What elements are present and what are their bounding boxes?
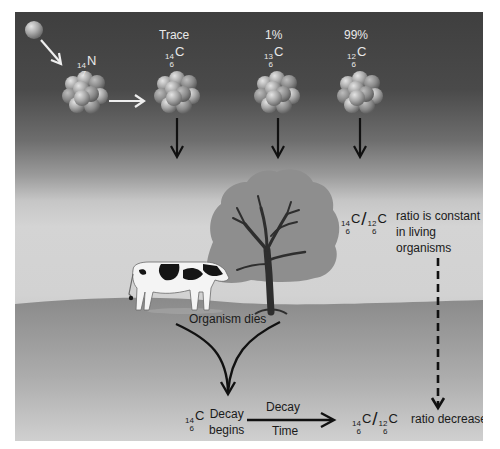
decay-arrow-label: Decay [266,401,300,414]
carbon-14-nucleus-icon [154,71,200,114]
carbon-14-label: 146C [165,45,184,65]
element-symbol: C [351,212,360,225]
element-symbol: C [175,45,184,58]
ratio-living-description: ratio is constant in living organisms [396,208,480,256]
element-symbol: C [388,412,397,425]
organism-dies-label: Organism dies [189,313,266,326]
nitrogen-14-label: 147N [77,54,96,74]
element-symbol: C [195,409,204,422]
atomic-number: 6 [185,425,194,433]
cosmic-ray-particle-icon [25,21,43,39]
time-arrow-label: Time [272,425,298,438]
element-symbol: C [274,45,283,58]
ratio-decreased-formula: 146C/126C [352,410,398,432]
carbon-13-abundance: 1% [265,29,282,42]
atomic-number: 6 [379,428,388,436]
transmutation-arrow-icon [109,95,144,107]
element-symbol: C [357,45,366,58]
carbon-12-nucleus-icon [337,71,383,114]
ratio-living-formula: 146C/126C [341,210,387,232]
element-symbol: C [377,212,386,225]
carbon-12-label: 126C [347,45,366,65]
ratio-slash: / [361,212,366,225]
atomic-number: 7 [77,70,86,78]
element-symbol: C [362,412,371,425]
atomic-number: 6 [368,228,377,236]
label-line: Decay [209,406,244,422]
label-line: begins [209,422,244,438]
tree-canopy [207,169,340,283]
description-line: in living [396,224,480,240]
particle-arrow-icon [41,40,61,64]
decay-begins-label: Decay begins [209,406,244,438]
ratio-slash: / [372,412,377,425]
ratio-decreased-label: ratio decreased [411,413,483,426]
description-line: organisms [396,240,480,256]
atomic-number: 6 [264,61,273,69]
atomic-number: 6 [165,61,174,69]
decay-begins-isotope: 146C [185,409,204,429]
carbon-13-label: 136C [264,45,283,65]
atomic-number: 6 [347,61,356,69]
down-arrows [171,118,366,157]
element-symbol: N [87,54,96,67]
atomic-number: 6 [341,228,350,236]
carbon-14-abundance: Trace [159,29,189,42]
description-line: ratio is constant [396,208,480,224]
carbon-dating-diagram: 147N Trace 146C 1% 136C 99% 126C 146C/12… [15,12,483,441]
carbon-13-nucleus-icon [254,71,300,114]
atomic-number: 6 [352,428,361,436]
carbon-12-abundance: 99% [344,29,368,42]
